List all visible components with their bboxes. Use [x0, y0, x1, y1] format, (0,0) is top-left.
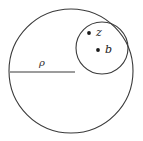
- inner-circle: [76, 22, 128, 74]
- point-b-dot: [96, 48, 100, 52]
- point-z-label: z: [95, 26, 102, 39]
- point-b-label: b: [105, 43, 112, 56]
- point-z-dot: [87, 31, 91, 35]
- figure-container: ρ z b: [0, 0, 143, 141]
- radius-label-rho: ρ: [38, 57, 45, 68]
- diagram-canvas: ρ z b: [0, 0, 143, 141]
